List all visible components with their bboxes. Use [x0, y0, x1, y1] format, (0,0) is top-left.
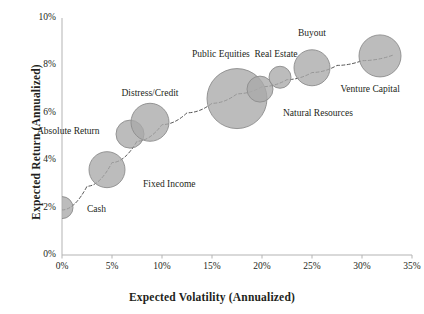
bubble-distress-credit: [131, 103, 169, 141]
x-tick-label: 30%: [342, 261, 382, 271]
x-tick-label: 15%: [192, 261, 232, 271]
bubble-series: [51, 35, 401, 219]
y-tick-label: 10%: [22, 12, 56, 22]
bubble-buyout: [294, 50, 330, 86]
x-axis-title: Expected Volatility (Annualized): [0, 291, 424, 303]
point-label-buyout: Buyout: [298, 28, 326, 38]
x-tick-label: 0%: [42, 261, 82, 271]
point-label-fixed-income: Fixed Income: [143, 179, 196, 189]
point-label-venture-capital: Venture Capital: [341, 84, 400, 94]
point-label-absolute-return: Absolute Return: [37, 126, 100, 136]
point-label-cash: Cash: [87, 204, 106, 214]
bubble-venture-capital: [359, 35, 401, 77]
bubble-real-estate: [269, 66, 291, 88]
x-tick-label: 10%: [142, 261, 182, 271]
x-tick-label: 25%: [292, 261, 332, 271]
x-tick-label: 35%: [392, 261, 424, 271]
y-axis-title: Expected Return (Annualized): [30, 22, 42, 262]
x-tick-label: 5%: [92, 261, 132, 271]
point-label-public-equities: Public Equities: [192, 49, 250, 59]
point-label-real-estate: Real Estate: [255, 49, 298, 59]
point-label-distress-credit: Distress/Credit: [122, 88, 179, 98]
bubble-chart: 0%2%4%6%8%10% 0%5%10%15%20%25%30%35% Cas…: [0, 0, 424, 314]
point-label-natural-resources: Natural Resources: [283, 108, 353, 118]
tick-marks: [62, 255, 412, 259]
bubble-fixed-income: [89, 152, 125, 188]
x-tick-label: 20%: [242, 261, 282, 271]
